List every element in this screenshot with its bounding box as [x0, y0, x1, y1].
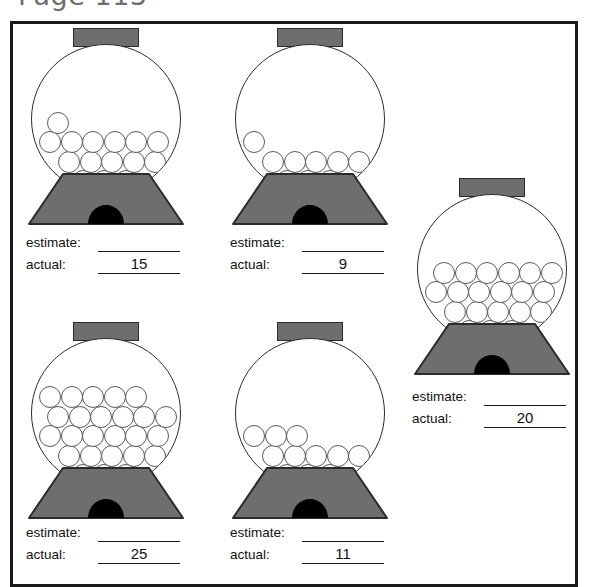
- gumball: [487, 301, 509, 323]
- gumball: [284, 445, 306, 467]
- gumball: [112, 406, 134, 428]
- gumball: [101, 151, 123, 173]
- gumball: [47, 112, 69, 134]
- gumball: [286, 425, 308, 447]
- actual-row: actual:15: [26, 252, 180, 274]
- gumball: [509, 301, 531, 323]
- gumball: [490, 281, 512, 303]
- machine-base: [404, 322, 580, 378]
- estimate-row: estimate:: [230, 230, 384, 252]
- gumball: [61, 425, 83, 447]
- actual-row: actual:25: [26, 542, 180, 564]
- gumball: [305, 445, 327, 467]
- gumball: [533, 281, 555, 303]
- gumball: [39, 425, 61, 447]
- estimate-input[interactable]: [484, 387, 566, 406]
- gumball: [262, 445, 284, 467]
- actual-label: actual:: [26, 546, 98, 564]
- gumball: [468, 281, 490, 303]
- gumball: [476, 262, 498, 284]
- gumball-machine: [18, 28, 194, 228]
- gumball: [82, 386, 104, 408]
- gumball: [541, 262, 563, 284]
- gumball: [243, 425, 265, 447]
- gumball-machine: [404, 178, 580, 378]
- estimate-label: estimate:: [26, 524, 98, 542]
- gumball: [348, 151, 370, 173]
- gumball: [284, 151, 306, 173]
- answer-block: estimate:actual:9: [230, 230, 384, 274]
- gumball: [425, 281, 447, 303]
- machine-base: [222, 466, 398, 522]
- estimate-label: estimate:: [412, 388, 484, 406]
- actual-value[interactable]: 11: [302, 545, 384, 564]
- gumball: [498, 262, 520, 284]
- estimate-label: estimate:: [26, 234, 98, 252]
- gumball: [80, 445, 102, 467]
- gumball: [265, 425, 287, 447]
- gumball: [58, 445, 80, 467]
- gumball-machine: [222, 28, 398, 228]
- gumball: [47, 406, 69, 428]
- gumball-machine: [222, 322, 398, 522]
- actual-value[interactable]: 25: [98, 545, 180, 564]
- gumball: [61, 131, 83, 153]
- answer-block: estimate:actual:25: [26, 520, 180, 564]
- gumball: [125, 386, 147, 408]
- actual-row: actual:11: [230, 542, 384, 564]
- estimate-input[interactable]: [98, 523, 180, 542]
- machine-base: [18, 172, 194, 228]
- gumball: [82, 131, 104, 153]
- answer-block: estimate:actual:11: [230, 520, 384, 564]
- gumball: [90, 406, 112, 428]
- answer-block: estimate:actual:15: [26, 230, 180, 274]
- gumball: [147, 131, 169, 153]
- actual-row: actual:9: [230, 252, 384, 274]
- actual-label: actual:: [26, 256, 98, 274]
- actual-label: actual:: [230, 256, 302, 274]
- gumball: [444, 301, 466, 323]
- estimate-input[interactable]: [302, 233, 384, 252]
- gumball: [447, 281, 469, 303]
- actual-value[interactable]: 15: [98, 255, 180, 274]
- machine-base: [222, 172, 398, 228]
- gumball: [39, 386, 61, 408]
- estimate-input[interactable]: [98, 233, 180, 252]
- gumball: [133, 406, 155, 428]
- gumball: [466, 301, 488, 323]
- actual-row: actual:20: [412, 406, 566, 428]
- gumball: [519, 262, 541, 284]
- gumball: [433, 262, 455, 284]
- gumball: [243, 131, 265, 153]
- gumball: [58, 151, 80, 173]
- page-title: Page 113: [18, 0, 147, 11]
- gumball: [455, 262, 477, 284]
- estimate-label: estimate:: [230, 234, 302, 252]
- actual-value[interactable]: 9: [302, 255, 384, 274]
- gumball: [511, 281, 533, 303]
- actual-value[interactable]: 20: [484, 409, 566, 428]
- actual-label: actual:: [230, 546, 302, 564]
- gumball: [348, 445, 370, 467]
- gumball: [327, 151, 349, 173]
- gumball: [262, 151, 284, 173]
- gumball: [80, 151, 102, 173]
- gumball: [61, 386, 83, 408]
- gumball: [147, 425, 169, 447]
- gumball: [144, 445, 166, 467]
- estimate-input[interactable]: [302, 523, 384, 542]
- answer-block: estimate:actual:20: [412, 384, 566, 428]
- gumball: [69, 406, 91, 428]
- estimate-label: estimate:: [230, 524, 302, 542]
- gumball: [305, 151, 327, 173]
- gumball-machine: [18, 322, 194, 522]
- gumball: [82, 425, 104, 447]
- gumball: [530, 301, 552, 323]
- gumball: [327, 445, 349, 467]
- gumball: [39, 131, 61, 153]
- gumball: [125, 425, 147, 447]
- estimate-row: estimate:: [230, 520, 384, 542]
- actual-label: actual:: [412, 410, 484, 428]
- gumball: [101, 445, 123, 467]
